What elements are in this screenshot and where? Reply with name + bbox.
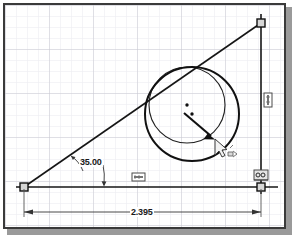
sketch-graphics-window: 35.00 2.395 <box>0 0 294 236</box>
vertical-constraint-symbol[interactable] <box>264 93 272 107</box>
coincident-constraint-symbol[interactable] <box>254 170 268 180</box>
horizontal-constraint-symbol[interactable] <box>132 173 145 181</box>
drag-direction-arrow <box>184 113 215 140</box>
original-circle-center-point[interactable] <box>185 103 188 106</box>
sketch-canvas[interactable]: 35.00 2.395 <box>3 3 286 229</box>
top-right-vertex[interactable] <box>257 19 265 27</box>
linear-dimension-text[interactable]: 2.395 <box>130 207 154 217</box>
angle-dimension-text[interactable]: 35.00 <box>79 157 103 167</box>
drag-cursor <box>215 139 237 157</box>
sketch-circles[interactable] <box>145 67 239 161</box>
dragged-circle-center-point[interactable] <box>190 112 193 115</box>
